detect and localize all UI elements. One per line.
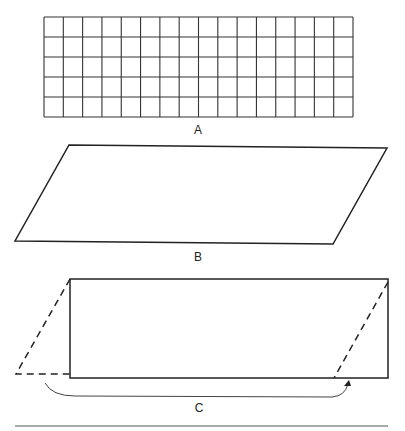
diagram-canvas: A B C	[0, 0, 405, 431]
figure-c	[16, 279, 388, 397]
parallelogram-b	[15, 145, 387, 244]
label-a: A	[194, 123, 202, 137]
label-b: B	[194, 250, 202, 264]
curved-arrow	[45, 383, 348, 397]
rectangle-c	[70, 279, 388, 378]
dashed-triangle-left	[16, 279, 70, 374]
grid-figure-a	[44, 17, 353, 117]
arrowhead-icon	[344, 380, 351, 386]
label-c: C	[195, 401, 204, 415]
dashed-cut-line-right	[334, 282, 388, 378]
